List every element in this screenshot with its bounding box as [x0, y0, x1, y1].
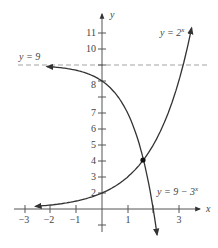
curve1-label: y = 2x	[159, 26, 185, 38]
svg-text:−2: −2	[44, 214, 55, 225]
svg-text:11: 11	[86, 27, 96, 38]
intersection-point	[140, 157, 145, 162]
chart: −3 −2 −1 1 3 2 3 4 5 6 7 8 10 11 x y y =…	[0, 0, 218, 248]
svg-text:4: 4	[91, 155, 96, 166]
asymptote-label: y = 9	[18, 51, 40, 62]
svg-text:1: 1	[126, 214, 131, 225]
svg-text:10: 10	[86, 43, 96, 54]
svg-text:5: 5	[91, 139, 96, 150]
x-tick-labels: −3 −2 −1 1 3	[19, 214, 182, 225]
svg-text:7: 7	[91, 107, 96, 118]
svg-text:6: 6	[91, 123, 96, 134]
svg-text:3: 3	[91, 171, 96, 182]
svg-text:3: 3	[177, 214, 182, 225]
svg-text:8: 8	[91, 79, 96, 90]
y-tick-labels: 2 3 4 5 6 7 8 10 11	[86, 27, 96, 198]
svg-text:−1: −1	[70, 214, 81, 225]
x-axis-label: x	[205, 203, 211, 214]
curve-2-pow-x	[35, 28, 191, 206]
svg-text:−3: −3	[19, 214, 30, 225]
curve2-label: y = 9 − 3x	[156, 185, 199, 197]
y-axis-label: y	[109, 9, 115, 20]
